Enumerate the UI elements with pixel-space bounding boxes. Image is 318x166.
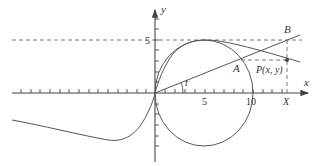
x-tick-label-5: 5 xyxy=(202,96,207,107)
angle-arc-t xyxy=(181,82,183,93)
angle-label-t: t xyxy=(185,77,188,88)
x-axis-ticks xyxy=(21,89,282,93)
diagram-canvas: y x 5 5 10 X B A P(x, y) t xyxy=(0,0,318,166)
point-P xyxy=(285,58,289,62)
point-A-label: A xyxy=(232,62,240,74)
x-axis-label: x xyxy=(303,76,309,88)
witch-of-agnesi-diagram: y x 5 5 10 X B A P(x, y) t xyxy=(0,0,318,166)
x-tick-label-10: 10 xyxy=(246,96,256,107)
point-P-label: P(x, y) xyxy=(255,64,283,76)
y-tick-label-5: 5 xyxy=(145,35,150,46)
y-axis-label: y xyxy=(160,3,166,15)
x-marker-label: X xyxy=(282,96,290,107)
point-B-label: B xyxy=(284,23,291,35)
